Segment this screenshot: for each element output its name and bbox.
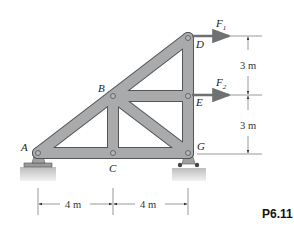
pin-g-icon [186, 151, 191, 156]
truss-diagram: A B C D E G F1 F2 3 m 3 m 4 m 4 m P6.11 [0, 0, 294, 230]
label-joint-d: D [195, 38, 204, 50]
label-joint-e: E [195, 96, 203, 108]
pin-b-icon [111, 94, 116, 99]
label-joint-a: A [20, 141, 28, 153]
pin-d-icon [186, 36, 191, 41]
dimension-horizontal-left: 4 m [65, 199, 81, 210]
horizontal-dimensions [38, 188, 188, 215]
label-joint-b: B [98, 82, 105, 94]
label-force-f1: F1 [215, 17, 226, 32]
dimension-horizontal-right: 4 m [140, 199, 156, 210]
dimension-vertical-upper: 3 m [240, 60, 256, 71]
pin-c-icon [111, 151, 116, 156]
label-force-f2: F2 [215, 76, 227, 91]
label-joint-c: C [109, 162, 117, 174]
label-joint-g: G [197, 140, 205, 152]
pin-a-icon [36, 151, 41, 156]
problem-id: P6.11 [262, 207, 293, 221]
pin-e-icon [186, 94, 191, 99]
dimension-vertical-lower: 3 m [240, 120, 256, 131]
